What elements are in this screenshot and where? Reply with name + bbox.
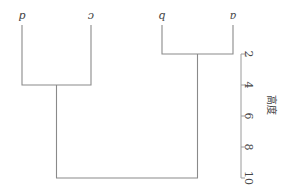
dendrogram-links xyxy=(22,25,233,178)
y-tick-label: 10 xyxy=(242,171,255,185)
leaf-label-b: b xyxy=(158,10,165,23)
plot-area: 246810 abcd 高度 xyxy=(18,10,278,185)
leaf-label-c: c xyxy=(88,10,94,23)
y-axis: 246810 xyxy=(241,51,255,186)
leaf-label-d: d xyxy=(18,10,25,23)
y-tick-label: 6 xyxy=(242,113,255,120)
y-tick-label: 2 xyxy=(242,51,255,58)
y-axis-title: 高度 xyxy=(266,95,278,115)
merge-link xyxy=(57,54,198,178)
y-tick-label: 4 xyxy=(242,82,255,89)
y-tick-label: 8 xyxy=(242,144,255,151)
dendrogram-chart: 246810 abcd 高度 xyxy=(0,0,290,194)
merge-link xyxy=(22,25,91,85)
leaf-labels: abcd xyxy=(18,10,236,23)
leaf-label-a: a xyxy=(230,10,237,23)
merge-link xyxy=(162,25,233,54)
dendrogram-svg: 246810 abcd 高度 xyxy=(0,0,290,194)
